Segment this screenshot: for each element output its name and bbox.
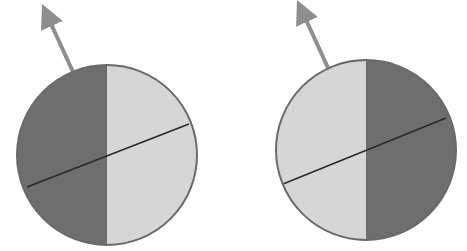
right-arrow-icon bbox=[302, 11, 329, 70]
right-light-half bbox=[276, 60, 366, 240]
right-dark-half bbox=[366, 60, 456, 240]
left-sphere bbox=[17, 15, 197, 245]
diagram-canvas bbox=[0, 0, 467, 251]
left-dark-half bbox=[17, 65, 107, 245]
left-arrow-icon bbox=[47, 15, 73, 72]
left-light-half bbox=[107, 65, 197, 245]
right-sphere bbox=[276, 11, 456, 240]
